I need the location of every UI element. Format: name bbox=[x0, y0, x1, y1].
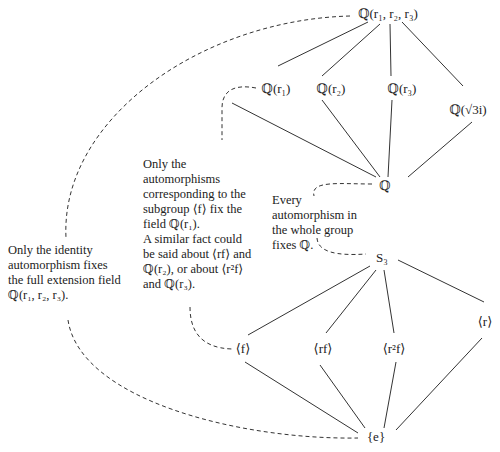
edge-s3-r2f bbox=[384, 270, 394, 333]
field-node-top: ℚ(r₁, r₂, r₃) bbox=[358, 6, 418, 22]
edge-f-e bbox=[245, 362, 358, 433]
edge-r-e bbox=[396, 338, 482, 430]
note-line: fixes ℚ. bbox=[272, 238, 357, 253]
note-line: subgroup ⟨f⟩ fix the bbox=[143, 202, 251, 217]
field-node-q-r1: ℚ(r₁) bbox=[262, 81, 291, 97]
edge-qsqrt-q bbox=[408, 122, 472, 177]
note-line: be said about ⟨rf⟩ and bbox=[143, 247, 251, 262]
edge-top-qr3 bbox=[390, 24, 391, 76]
edge-s3-rf bbox=[326, 270, 376, 333]
group-node-f: ⟨f⟩ bbox=[236, 341, 250, 357]
note-line: field ℚ(r₁). bbox=[143, 217, 251, 232]
note-line: the whole group bbox=[272, 223, 357, 238]
dashed-qr1-to-note bbox=[222, 87, 256, 140]
edge-top-qr1 bbox=[278, 22, 368, 66]
edge-qr1-q bbox=[232, 103, 376, 177]
note-subgroup: Only the automorphisms corresponding to … bbox=[143, 157, 251, 292]
note-line: ℚ(r₂), or about ⟨r²f⟩ bbox=[143, 262, 251, 277]
edge-rf-e bbox=[320, 365, 365, 428]
field-node-q-r2: ℚ(r₂) bbox=[317, 81, 346, 97]
group-node-r: ⟨r⟩ bbox=[478, 314, 492, 330]
edge-top-qr2 bbox=[322, 24, 380, 76]
dashed-note-to-f bbox=[190, 307, 232, 349]
group-node-r2f: ⟨r²f⟩ bbox=[383, 341, 406, 357]
note-line: automorphisms bbox=[143, 172, 251, 187]
edge-r2f-e bbox=[384, 362, 396, 428]
note-line: automorphism in bbox=[272, 208, 357, 223]
note-line: Only the bbox=[143, 157, 251, 172]
note-line: automorphism fixes bbox=[8, 258, 121, 273]
note-line: the full extension field bbox=[8, 273, 121, 288]
field-node-q-sqrt3i: ℚ(√3i) bbox=[449, 102, 486, 118]
note-line: ℚ(r₁, r₂, r₃). bbox=[8, 288, 121, 303]
group-node-s3: S₃ bbox=[376, 250, 388, 266]
dashed-note-to-e bbox=[68, 320, 358, 438]
note-line: and ℚ(r₃). bbox=[143, 277, 251, 292]
note-whole-group: Every automorphism in the whole group fi… bbox=[272, 193, 357, 253]
note-line: A similar fact could bbox=[143, 232, 251, 247]
note-line: Only the identity bbox=[8, 243, 121, 258]
field-node-q-r3: ℚ(r₃) bbox=[388, 81, 417, 97]
note-line: Every bbox=[272, 193, 357, 208]
note-identity: Only the identity automorphism fixes the… bbox=[8, 243, 121, 303]
edge-qr2-q bbox=[322, 100, 380, 177]
group-node-e: {e} bbox=[367, 429, 385, 445]
group-node-rf: ⟨rf⟩ bbox=[314, 341, 333, 357]
field-node-q: ℚ bbox=[379, 178, 390, 194]
edge-qr3-q bbox=[388, 100, 392, 177]
edge-s3-r bbox=[398, 260, 484, 302]
edge-top-qsqrt bbox=[402, 22, 463, 86]
note-line: corresponding to the bbox=[143, 187, 251, 202]
